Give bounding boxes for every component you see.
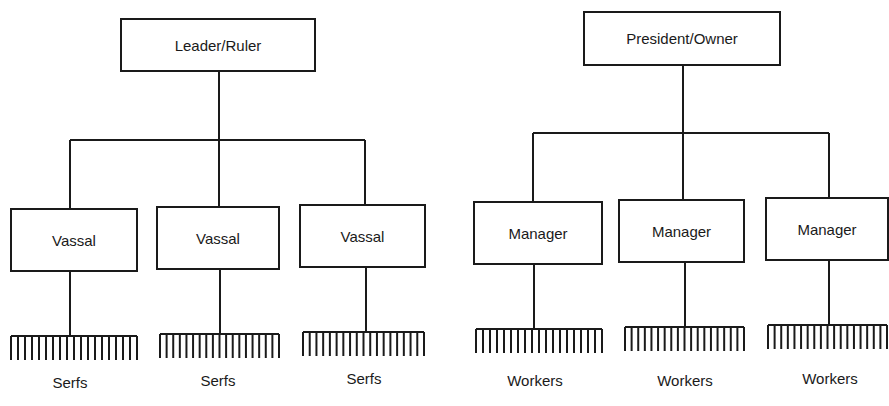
vassal-box-3: Vassal xyxy=(299,204,426,268)
vassal-label-2: Vassal xyxy=(196,230,240,247)
manager-box-3: Manager xyxy=(765,197,889,261)
vassal-box-1: Vassal xyxy=(10,208,138,272)
scan-fragment xyxy=(16,0,34,4)
vassal-label-3: Vassal xyxy=(341,228,385,245)
vassal-label-1: Vassal xyxy=(52,232,96,249)
workers-comb-icon-3 xyxy=(768,325,887,349)
manager-label-1: Manager xyxy=(508,225,567,242)
president-owner-box: President/Owner xyxy=(583,11,781,66)
workers-comb-icon-1 xyxy=(476,329,602,353)
manager-label-2: Manager xyxy=(652,223,711,240)
serfs-label-2: Serfs xyxy=(168,372,268,389)
manager-label-3: Manager xyxy=(797,221,856,238)
serfs-comb-icon-2 xyxy=(160,334,279,358)
serfs-label-1: Serfs xyxy=(20,374,120,391)
vassal-box-2: Vassal xyxy=(156,206,280,270)
workers-label-3: Workers xyxy=(780,370,880,387)
president-owner-label: President/Owner xyxy=(626,30,738,47)
manager-box-2: Manager xyxy=(618,199,745,263)
workers-label-2: Workers xyxy=(635,372,735,389)
workers-comb-icon-2 xyxy=(625,327,744,351)
leader-ruler-label: Leader/Ruler xyxy=(175,37,262,54)
manager-box-1: Manager xyxy=(473,201,603,265)
leader-ruler-box: Leader/Ruler xyxy=(120,18,316,72)
serfs-label-3: Serfs xyxy=(314,370,414,387)
serfs-comb-icon-3 xyxy=(303,332,424,356)
workers-label-1: Workers xyxy=(485,372,585,389)
serfs-comb-icon-1 xyxy=(11,336,137,360)
